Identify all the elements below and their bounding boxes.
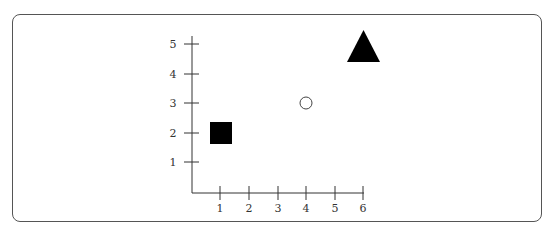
y-tick-label-4: 4 [170, 68, 177, 81]
y-tick-label-1: 1 [170, 156, 177, 169]
y-tick-label-5: 5 [170, 38, 177, 51]
x-tick-label-3: 3 [275, 202, 282, 215]
y-tick-labels: 5 4 3 2 1 [170, 38, 177, 169]
circle-marker [300, 97, 312, 109]
y-tick-label-3: 3 [170, 97, 177, 110]
x-tick-labels: 1 2 3 4 5 6 [217, 202, 367, 215]
x-tick-label-6: 6 [360, 202, 367, 215]
x-tick-label-1: 1 [217, 202, 224, 215]
x-tick-label-4: 4 [303, 202, 310, 215]
x-tick-label-5: 5 [332, 202, 339, 215]
x-tick-label-2: 2 [246, 202, 253, 215]
y-tick-label-2: 2 [170, 127, 177, 140]
triangle-marker [347, 30, 380, 62]
coordinate-plot: 5 4 3 2 1 1 2 3 4 5 6 [0, 0, 555, 233]
square-marker [210, 122, 232, 144]
